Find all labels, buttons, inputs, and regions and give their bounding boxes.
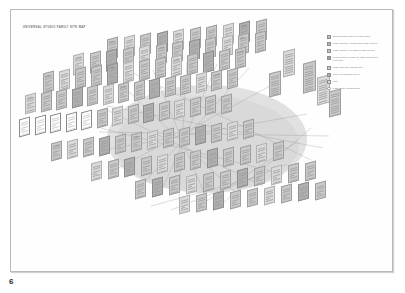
legend-item-7: Page under construction bbox=[327, 87, 389, 91]
legend-item-label: Recipe/Gallery Page on USF maintained ex… bbox=[333, 56, 389, 63]
sitemap-card bbox=[143, 102, 154, 123]
sitemap-card bbox=[195, 124, 206, 145]
sitemap-card: Press bbox=[131, 132, 142, 153]
sitemap-card: About bbox=[107, 63, 118, 86]
sitemap-card-tall bbox=[303, 60, 316, 93]
sitemap-card bbox=[230, 189, 241, 209]
sitemap-card bbox=[169, 175, 180, 196]
legend-item-1: Page category located with USF section bbox=[327, 42, 389, 46]
sitemap-card bbox=[81, 109, 92, 130]
sitemap-card bbox=[67, 139, 78, 160]
sitemap-card bbox=[255, 31, 266, 54]
sitemap-card: Groups bbox=[211, 70, 222, 92]
sitemap-card bbox=[72, 87, 83, 109]
legend-swatch-icon bbox=[327, 35, 331, 39]
legend-swatch-icon bbox=[327, 56, 331, 60]
sitemap-card bbox=[220, 170, 231, 191]
legend-item-label: Page with USF affiliate site bbox=[333, 66, 363, 69]
sitemap-card bbox=[174, 152, 185, 173]
sitemap-card bbox=[165, 75, 176, 97]
sitemap-card bbox=[213, 191, 224, 211]
legend-item-label: Page category located with USF section bbox=[333, 42, 378, 45]
sitemap-card bbox=[108, 159, 119, 180]
sitemap-card bbox=[221, 93, 232, 114]
sitemap-card bbox=[179, 126, 190, 147]
legend-swatch-icon bbox=[327, 80, 331, 84]
sitemap-card bbox=[281, 184, 292, 204]
sitemap-card bbox=[203, 51, 214, 74]
legend-swatch-icon bbox=[327, 73, 331, 77]
sitemap-card bbox=[141, 155, 152, 176]
sitemap-card bbox=[256, 143, 267, 164]
sitemap-card bbox=[298, 182, 309, 202]
sitemap-card bbox=[149, 77, 160, 99]
sitemap-card bbox=[237, 168, 248, 189]
sitemap-card bbox=[243, 119, 254, 140]
sitemap-card bbox=[227, 68, 238, 90]
sitemap-card bbox=[288, 162, 299, 183]
sitemap-card-tall bbox=[283, 48, 295, 77]
legend-item-4: Page with USF affiliate site bbox=[327, 66, 389, 70]
legend-item-2: Page located in a shared USF section bbox=[327, 49, 389, 53]
sitemap-card bbox=[305, 161, 316, 182]
sitemap-card bbox=[97, 108, 108, 129]
legend-item-label: Link bbox=[333, 80, 338, 83]
sitemap-card bbox=[19, 117, 30, 138]
legend-dot-icon bbox=[327, 87, 331, 91]
sitemap-card bbox=[186, 173, 197, 194]
sitemap-card bbox=[203, 171, 214, 192]
sitemap-card bbox=[112, 106, 123, 127]
sitemap-card bbox=[135, 179, 146, 200]
sitemap-card bbox=[41, 91, 52, 113]
sitemap-card bbox=[152, 177, 163, 198]
sitemap-card bbox=[247, 187, 258, 207]
sitemap-card bbox=[115, 133, 126, 154]
sitemap-card bbox=[196, 193, 207, 213]
sitemap-card bbox=[56, 89, 67, 111]
sitemap-card bbox=[223, 146, 234, 167]
legend-item-3: Recipe/Gallery Page on USF maintained ex… bbox=[327, 56, 389, 63]
sitemap-card bbox=[155, 57, 166, 80]
sitemap-card bbox=[163, 128, 174, 149]
sitemap-card: Hotels bbox=[25, 93, 36, 115]
sitemap-card bbox=[128, 104, 139, 125]
legend-item-label: Section/Main Page on USF Portal bbox=[333, 35, 370, 38]
sitemap-card-tall bbox=[269, 70, 281, 97]
sitemap-card bbox=[134, 79, 145, 101]
sitemap-card: Careers bbox=[51, 141, 62, 162]
legend-item-6: Link bbox=[327, 80, 389, 84]
legend-swatch-icon bbox=[327, 49, 331, 53]
legend-item-label: Page located in a shared USF section bbox=[333, 49, 375, 52]
sitemap-card: Dining bbox=[118, 81, 129, 103]
sitemap-card bbox=[180, 74, 191, 96]
sitemap-card bbox=[35, 115, 46, 136]
sitemap-card bbox=[196, 72, 207, 94]
sitemap-card bbox=[254, 166, 265, 187]
sitemap-card bbox=[190, 150, 201, 171]
sitemap-card bbox=[139, 59, 150, 82]
sitemap-card bbox=[157, 153, 168, 174]
sitemap-card bbox=[315, 180, 326, 200]
sitemap-card: Support bbox=[235, 47, 246, 70]
sitemap-card: Contact bbox=[171, 55, 182, 78]
sitemap-card bbox=[103, 83, 114, 105]
sitemap-card bbox=[174, 99, 185, 120]
legend-item-label: Page under construction bbox=[333, 87, 360, 90]
sitemap-card bbox=[83, 137, 94, 158]
sitemap-card bbox=[179, 195, 190, 215]
sitemap-card bbox=[205, 95, 216, 116]
sitemap-card bbox=[91, 161, 102, 182]
sitemap-card bbox=[264, 186, 275, 206]
sitemap-card bbox=[87, 85, 98, 107]
card-label: Dining bbox=[120, 84, 127, 88]
legend: Section/Main Page on USF PortalPage cate… bbox=[327, 35, 389, 94]
sitemap-card bbox=[124, 157, 135, 178]
legend-item-5: Page on calendar server bbox=[327, 73, 389, 77]
sitemap-card bbox=[219, 49, 230, 72]
sitemap-card bbox=[159, 100, 170, 121]
document-page: Universal Studio Family Site Map HomeFil… bbox=[10, 9, 393, 272]
sitemap-card bbox=[227, 121, 238, 142]
legend-item-0: Section/Main Page on USF Portal bbox=[327, 35, 389, 39]
legend-swatch-icon bbox=[327, 42, 331, 46]
sitemap-card bbox=[273, 141, 284, 162]
